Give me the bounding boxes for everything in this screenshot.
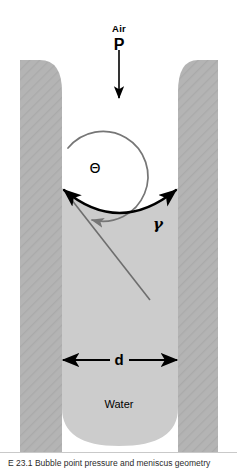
right-capillary-wall (178, 60, 218, 452)
pressure-label: P (114, 37, 125, 53)
diameter-label: d (114, 352, 123, 367)
capillary-meniscus-diagram: Air P Θ γ d Water E 23.1 Bubble point pr… (0, 0, 237, 469)
left-capillary-wall (20, 60, 62, 452)
caption-divider (0, 452, 237, 453)
water-label: Water (105, 399, 134, 410)
air-label: Air (112, 24, 126, 34)
contact-angle-label: Θ (89, 161, 100, 175)
surface-tension-label: γ (153, 217, 163, 232)
figure-caption: E 23.1 Bubble point pressure and meniscu… (8, 458, 234, 469)
